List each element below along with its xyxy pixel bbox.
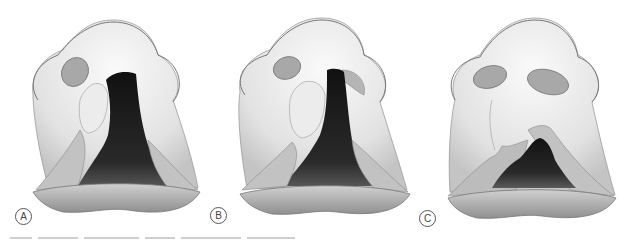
panel-label-c: C [419,210,436,227]
panel-a: A [8,0,218,228]
caption-cutoff [10,237,340,242]
illustration-panel-b [212,0,422,228]
lower-lip [448,190,616,219]
panel-b: B [212,0,422,228]
lower-lip [240,186,410,215]
panel-c: C [420,0,630,228]
panel-label-a: A [15,208,32,225]
panel-label-b: B [210,207,227,224]
illustration-panel-a [8,0,218,228]
lower-lip [33,184,200,213]
illustration-panel-c [420,0,632,228]
